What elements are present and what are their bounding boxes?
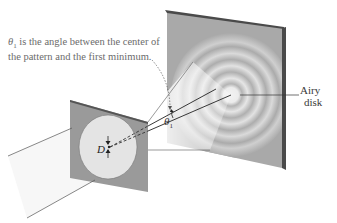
aperture-diameter-label: D xyxy=(97,143,105,155)
theta-1-label: θ1 xyxy=(164,115,173,131)
airy-disk-label: Airy disk xyxy=(300,84,322,108)
caption-line-2: the pattern and the first minimum. xyxy=(8,51,160,63)
caption-line-1-text: is the angle between the center of xyxy=(17,36,160,47)
theta-subscript: 1 xyxy=(169,122,173,130)
caption-line-1: θ1 is the angle between the center of xyxy=(8,36,160,51)
angle-caption: θ1 is the angle between the center of th… xyxy=(8,36,160,62)
airy-label-line-2: disk xyxy=(300,96,322,108)
airy-label-line-1: Airy xyxy=(300,84,322,96)
diffraction-diagram: θ1 is the angle between the center of th… xyxy=(0,0,337,223)
diagram-svg xyxy=(0,0,337,223)
